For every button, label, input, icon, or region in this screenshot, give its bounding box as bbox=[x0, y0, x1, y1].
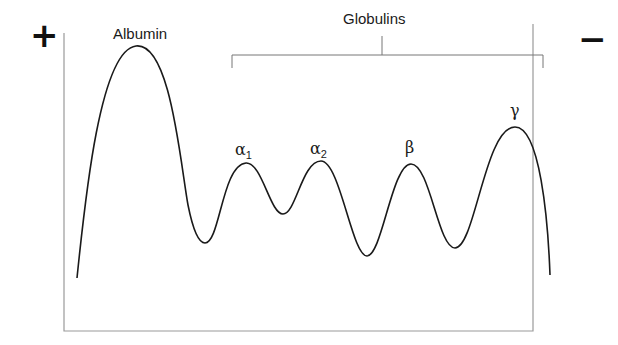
electrophoresis-diagram bbox=[0, 0, 618, 345]
label-alpha1: α1 bbox=[235, 140, 252, 161]
alpha2-symbol: α bbox=[310, 139, 321, 158]
alpha2-subscript: 2 bbox=[321, 148, 327, 160]
anode-plus-symbol: + bbox=[30, 18, 59, 52]
alpha1-subscript: 1 bbox=[246, 149, 252, 161]
globulins-bracket bbox=[232, 36, 543, 68]
alpha1-symbol: α bbox=[235, 140, 246, 159]
label-albumin: Albumin bbox=[113, 25, 167, 42]
density-curve bbox=[77, 46, 550, 278]
label-globulins: Globulins bbox=[343, 10, 406, 27]
cathode-minus-symbol: − bbox=[578, 22, 607, 56]
frame bbox=[64, 24, 533, 331]
label-gamma: γ bbox=[510, 101, 520, 120]
label-beta: β bbox=[405, 138, 414, 157]
label-alpha2: α2 bbox=[310, 139, 327, 160]
